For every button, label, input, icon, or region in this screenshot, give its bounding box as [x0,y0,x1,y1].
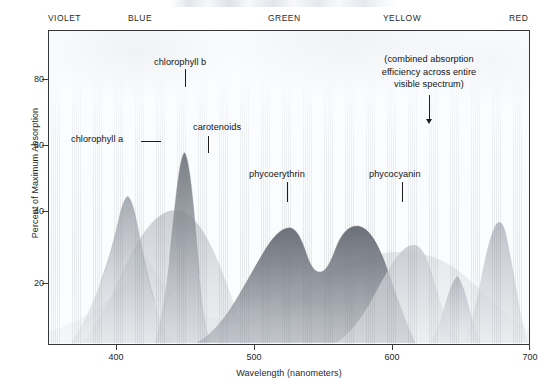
y-tick-label-80: 80 [18,74,44,84]
x-axis-title: Wavelength (nanometers) [48,368,530,378]
band-label-red: RED [509,13,528,23]
x-tick-mark-600 [392,345,393,350]
annotation-phycoerythrin: phycoerythrin [249,169,305,179]
chlorophyll-a-red-peak [463,222,529,342]
combined-efficiency-arrow-icon [426,119,432,124]
annotation-chlorophyll-b: chlorophyll b [154,57,206,67]
plot-area: chlorophyll b chlorophyll a carotenoids … [48,30,530,345]
leader-chlorophyll-a [141,141,161,142]
annotation-combined-line-2: efficiency across entire [349,66,509,79]
scan-edge-artifact [170,0,400,7]
annotation-chlorophyll-a: chlorophyll a [71,134,123,144]
band-label-violet: VIOLET [48,13,81,23]
x-tick-label-400: 400 [96,352,136,362]
annotation-combined-efficiency: (combined absorption efficiency across e… [349,53,509,91]
band-label-green: GREEN [268,13,300,23]
y-tick-label-60: 60 [18,140,44,150]
band-label-yellow: YELLOW [383,13,421,23]
absorption-spectrum-figure: VIOLET BLUE GREEN YELLOW RED Percent of … [0,0,560,388]
annotation-carotenoids: carotenoids [193,122,241,132]
leader-phycoerythrin [287,182,288,202]
y-tick-label-20: 20 [18,278,44,288]
x-tick-mark-700 [529,345,530,350]
annotation-combined-line-3: visible spectrum) [349,78,509,91]
leader-chlorophyll-b [185,69,186,87]
x-tick-mark-500 [254,345,255,350]
y-axis-title: Percent of Maximum Absorption [30,58,40,288]
x-tick-mark-400 [116,345,117,350]
spectrum-band-labels: VIOLET BLUE GREEN YELLOW RED [0,13,560,27]
annotation-phycocyanin: phycocyanin [369,169,421,179]
x-tick-label-600: 600 [372,352,412,362]
y-tick-label-40: 40 [18,206,44,216]
leader-phycocyanin [402,182,403,202]
combined-efficiency-arrow-shaft [429,95,430,121]
annotation-combined-line-1: (combined absorption [349,53,509,66]
x-tick-label-700: 700 [510,352,550,362]
x-tick-label-500: 500 [234,352,274,362]
band-label-blue: BLUE [128,13,152,23]
leader-carotenoids [208,136,209,153]
